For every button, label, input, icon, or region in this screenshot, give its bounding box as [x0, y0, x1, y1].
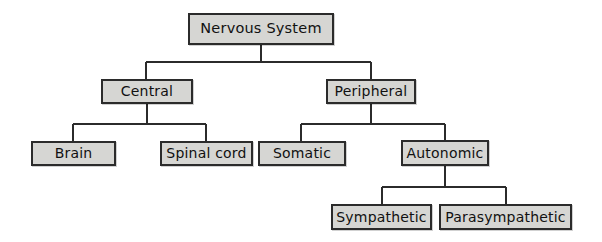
node-label-sympathetic: Sympathetic: [336, 210, 427, 225]
node-nervous-system[interactable]: Nervous System: [188, 13, 334, 45]
node-label-parasympathetic: Parasympathetic: [445, 210, 565, 225]
connector-central-to-children: [73, 104, 206, 141]
node-central[interactable]: Central: [101, 79, 193, 104]
connector-autonomic-to-children: [382, 166, 506, 204]
node-peripheral[interactable]: Peripheral: [326, 79, 416, 104]
node-somatic[interactable]: Somatic: [258, 141, 346, 166]
node-label-somatic: Somatic: [273, 146, 331, 161]
node-parasympathetic[interactable]: Parasympathetic: [439, 204, 572, 230]
node-label-spinal-cord: Spinal cord: [166, 146, 246, 161]
connector-peripheral-to-children: [301, 104, 445, 141]
node-label-brain: Brain: [55, 146, 93, 161]
node-brain[interactable]: Brain: [31, 141, 116, 166]
node-label-peripheral: Peripheral: [335, 84, 408, 99]
node-label-autonomic: Autonomic: [407, 146, 484, 161]
connector-root-to-level1: [146, 45, 371, 79]
node-label-nervous-system: Nervous System: [200, 21, 321, 37]
nervous-system-diagram: Nervous SystemCentralPeripheralBrainSpin…: [0, 0, 602, 242]
node-sympathetic[interactable]: Sympathetic: [331, 204, 432, 230]
node-label-central: Central: [121, 84, 173, 99]
node-spinal-cord[interactable]: Spinal cord: [160, 141, 253, 166]
node-autonomic[interactable]: Autonomic: [401, 140, 489, 166]
